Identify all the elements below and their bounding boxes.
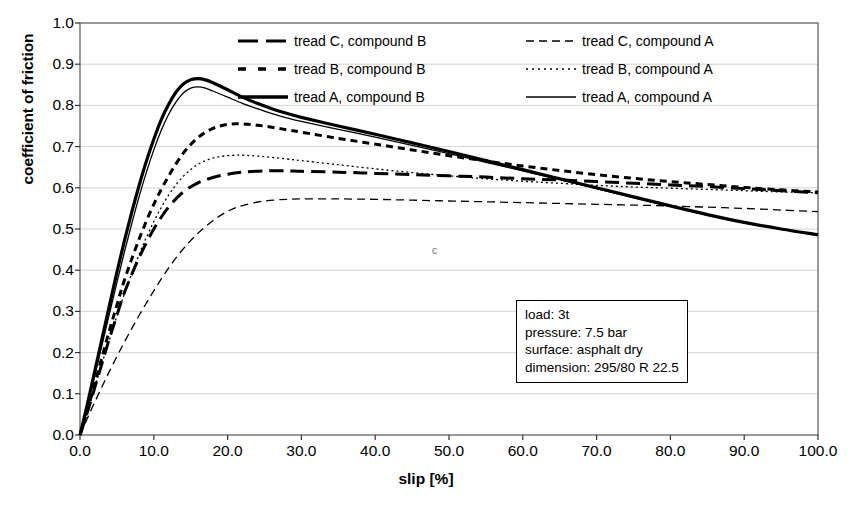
series-line [80,87,818,435]
legend-label: tread B, compound A [582,62,713,76]
legend-swatch-thick-solid-icon [236,90,290,104]
legend-item: tread B, compound A [524,62,812,76]
x-tick-label: 40.0 [340,443,410,459]
conditions-info-box: load: 3tpressure: 7.5 barsurface: asphal… [516,300,688,383]
y-tick-label: 0.9 [28,56,74,72]
info-box-line: dimension: 295/80 R 22.5 [525,359,679,377]
y-axis-ticks: 0.00.10.20.30.40.50.60.70.80.91.0 [24,0,74,513]
legend-item: tread A, compound B [236,90,524,104]
legend-label: tread A, compound A [582,90,712,104]
x-tick-label: 50.0 [414,443,484,459]
y-tick-label: 0.0 [28,427,74,443]
friction-slip-chart: coefficient of friction slip [%] 0.00.10… [0,0,852,513]
legend-label: tread B, compound B [294,62,426,76]
info-box-line: surface: asphalt dry [525,341,679,359]
y-tick-label: 0.7 [28,139,74,155]
series-line [80,199,818,435]
legend-item: tread C, compound B [236,34,524,48]
y-tick-label: 0.3 [28,303,74,319]
y-tick-label: 0.8 [28,97,74,113]
legend-swatch-thick-short-dash-icon [236,62,290,76]
legend-swatch-thick-long-dash-icon [236,34,290,48]
legend-item: tread A, compound A [524,90,812,104]
gridlines [80,64,818,394]
legend-label: tread A, compound B [294,90,425,104]
legend-swatch-thin-dash-icon [524,34,578,48]
stray-character: c [432,245,437,256]
x-tick-label: 100.0 [783,443,852,459]
x-axis-title: slip [%] [0,470,852,488]
legend-label: tread C, compound A [582,34,714,48]
y-tick-label: 0.1 [28,386,74,402]
legend-item: tread C, compound A [524,34,812,48]
chart-legend: tread C, compound Btread C, compound Atr… [236,27,812,111]
series-line [80,124,818,435]
y-tick-label: 0.4 [28,262,74,278]
y-tick-label: 0.2 [28,345,74,361]
x-tick-label: 20.0 [193,443,263,459]
legend-swatch-thin-solid-icon [524,90,578,104]
y-tick-label: 1.0 [28,15,74,31]
series-line [80,79,818,435]
y-tick-label: 0.5 [28,221,74,237]
x-tick-label: 10.0 [119,443,189,459]
x-tick-label: 80.0 [635,443,705,459]
legend-item: tread B, compound B [236,62,524,76]
x-tick-label: 60.0 [488,443,558,459]
x-tick-label: 70.0 [562,443,632,459]
x-tick-label: 90.0 [709,443,779,459]
x-tick-label: 0.0 [45,443,115,459]
y-tick-label: 0.6 [28,180,74,196]
info-box-line: load: 3t [525,306,679,324]
info-box-line: pressure: 7.5 bar [525,324,679,342]
legend-swatch-thin-dotted-icon [524,62,578,76]
series-line [80,155,818,435]
legend-label: tread C, compound B [294,34,426,48]
series-line [80,171,818,435]
series-lines [80,79,818,435]
x-tick-label: 30.0 [266,443,336,459]
